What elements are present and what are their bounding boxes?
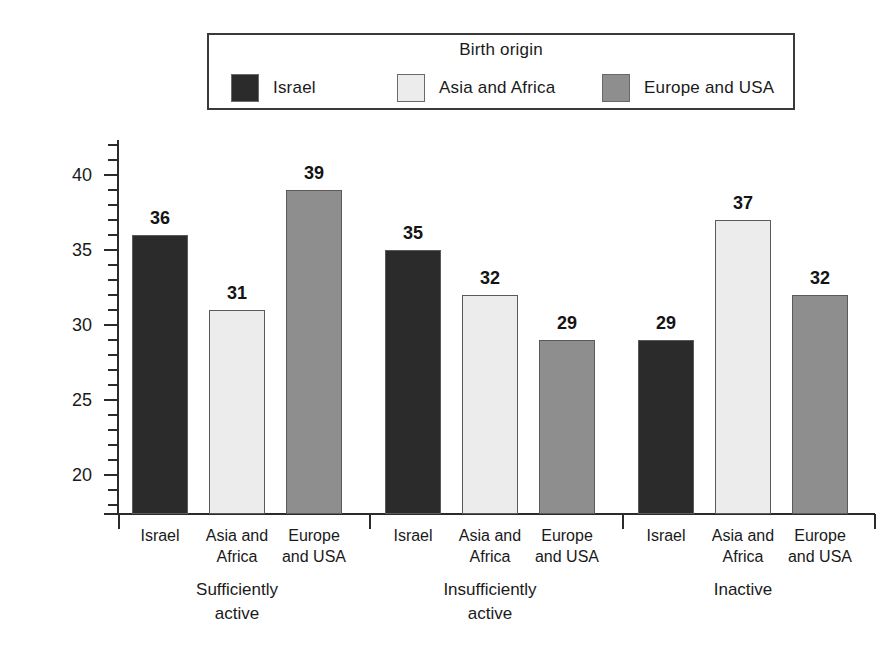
x-group-label: Sufficiently active — [127, 578, 347, 626]
y-tick-major — [104, 174, 117, 176]
y-tick-major — [104, 399, 117, 401]
x-group-separator-tick — [874, 514, 876, 529]
bar — [638, 340, 694, 514]
bar — [209, 310, 265, 514]
chart-legend: Birth origin Israel Asia and Africa Euro… — [207, 33, 795, 110]
x-tick-label: Asia and Africa — [195, 525, 279, 567]
legend-label-europe-and-usa: Europe and USA — [644, 78, 774, 98]
legend-item-asia-and-africa: Asia and Africa — [397, 71, 555, 105]
x-group-label: Inactive — [633, 578, 853, 602]
legend-item-europe-and-usa: Europe and USA — [602, 71, 774, 105]
legend-swatch-europe-and-usa — [602, 74, 630, 102]
y-tick-minor — [108, 294, 117, 296]
bar — [792, 295, 848, 514]
x-tick-label: Israel — [118, 525, 202, 546]
y-tick-minor — [108, 444, 117, 446]
legend-label-asia-and-africa: Asia and Africa — [439, 78, 555, 98]
y-tick-minor — [108, 204, 117, 206]
y-tick-minor — [108, 354, 117, 356]
y-tick-minor — [108, 459, 117, 461]
y-tick-minor — [108, 429, 117, 431]
x-group-separator-tick — [369, 514, 371, 529]
bar — [715, 220, 771, 514]
bar — [539, 340, 595, 514]
bar-value-label: 35 — [373, 224, 453, 242]
legend-title: Birth origin — [209, 40, 793, 60]
y-axis-line — [117, 140, 119, 515]
y-axis-title: Percent — [0, 238, 3, 300]
y-tick-major — [104, 474, 117, 476]
y-tick-label: 25 — [52, 391, 92, 409]
y-tick-minor — [108, 234, 117, 236]
y-tick-label: 20 — [52, 466, 92, 484]
y-tick-minor — [108, 189, 117, 191]
x-tick-label: Europe and USA — [525, 525, 609, 567]
y-tick-label: 35 — [52, 241, 92, 259]
bar — [462, 295, 518, 514]
y-tick-minor — [108, 414, 117, 416]
y-tick-major — [104, 324, 117, 326]
legend-items: Israel Asia and Africa Europe and USA — [209, 71, 793, 105]
x-tick-label: Asia and Africa — [701, 525, 785, 567]
y-tick-minor — [108, 489, 117, 491]
x-tick-label: Israel — [371, 525, 455, 546]
y-tick-minor — [108, 504, 117, 506]
y-tick-minor — [108, 309, 117, 311]
bar-value-label: 32 — [780, 269, 860, 287]
y-tick-major — [104, 249, 117, 251]
bar-chart-figure: Birth origin Israel Asia and Africa Euro… — [0, 0, 886, 662]
x-group-separator-tick — [622, 514, 624, 529]
x-tick-label: Europe and USA — [272, 525, 356, 567]
x-tick-label: Europe and USA — [778, 525, 862, 567]
legend-swatch-asia-and-africa — [397, 74, 425, 102]
y-tick-minor — [108, 219, 117, 221]
legend-item-israel: Israel — [231, 71, 316, 105]
x-tick-label: Israel — [624, 525, 708, 546]
bar-value-label: 29 — [626, 314, 706, 332]
y-tick-minor — [108, 384, 117, 386]
bar-value-label: 36 — [120, 209, 200, 227]
bar-value-label: 31 — [197, 284, 277, 302]
legend-label-israel: Israel — [273, 78, 316, 98]
y-tick-minor — [108, 144, 117, 146]
y-tick-minor — [108, 369, 117, 371]
y-tick-label: 30 — [52, 316, 92, 334]
bar — [132, 235, 188, 514]
x-group-label: Insufficiently active — [380, 578, 600, 626]
bar-value-label: 29 — [527, 314, 607, 332]
bar-value-label: 32 — [450, 269, 530, 287]
bar — [286, 190, 342, 514]
bar-value-label: 37 — [703, 194, 783, 212]
bar-value-label: 39 — [274, 164, 354, 182]
x-group-separator-tick — [118, 514, 120, 529]
legend-swatch-israel — [231, 74, 259, 102]
y-tick-minor — [108, 159, 117, 161]
y-tick-minor — [108, 279, 117, 281]
y-tick-label: 40 — [52, 166, 92, 184]
bar — [385, 250, 441, 514]
x-tick-label: Asia and Africa — [448, 525, 532, 567]
y-tick-minor — [108, 339, 117, 341]
y-tick-minor — [108, 264, 117, 266]
